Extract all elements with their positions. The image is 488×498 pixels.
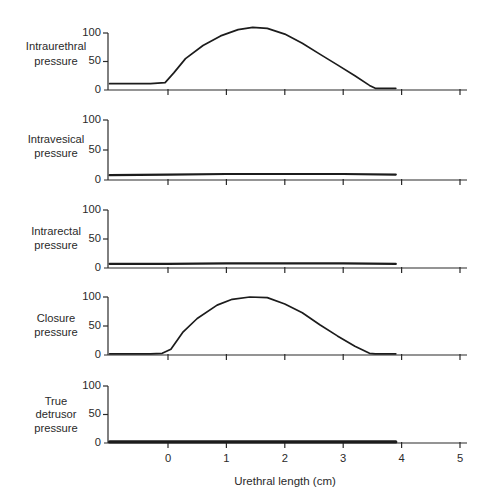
x-tick-label: 2 bbox=[282, 452, 288, 464]
y-tick-label: 0 bbox=[95, 83, 101, 95]
y-axis-label-line: True bbox=[45, 395, 68, 407]
y-axis-label-line: pressure bbox=[34, 326, 78, 338]
y-axis-label-line: Closure bbox=[37, 312, 76, 324]
y-tick-label: 50 bbox=[89, 407, 101, 419]
y-tick-label: 100 bbox=[82, 26, 101, 38]
x-axis-title: Urethral length (cm) bbox=[234, 475, 336, 487]
x-tick-label: 3 bbox=[340, 452, 346, 464]
y-axis-label-line: detrusor bbox=[35, 408, 76, 420]
pressure-trace-closure-pressure bbox=[110, 297, 396, 354]
panel-intrarectal-pressure: Intrarectalpressure050100 bbox=[31, 203, 467, 273]
x-tick-label: 4 bbox=[398, 452, 404, 464]
x-tick-label: 5 bbox=[457, 452, 463, 464]
y-axis-label-line: pressure bbox=[34, 239, 78, 251]
y-tick-label: 100 bbox=[82, 113, 101, 125]
pressure-trace-intravesical-pressure bbox=[110, 174, 396, 175]
panel-intraurethral-pressure: Intraurethralpressure050100 bbox=[26, 26, 467, 95]
panels-group: Intraurethralpressure050100Intravesicalp… bbox=[26, 26, 467, 448]
panel-closure-pressure: Closurepressure050100 bbox=[34, 290, 467, 360]
y-tick-label: 100 bbox=[82, 379, 101, 391]
x-tick-labels: 012345 bbox=[165, 452, 463, 464]
panel-true-detrusor-pressure: Truedetrusorpressure050100 bbox=[34, 379, 467, 448]
pressure-trace-intrarectal-pressure bbox=[110, 263, 396, 264]
y-axis-label-line: pressure bbox=[34, 147, 78, 159]
y-tick-label: 50 bbox=[89, 319, 101, 331]
y-tick-label: 0 bbox=[95, 261, 101, 273]
y-axis-label-line: Intravesical bbox=[28, 133, 85, 145]
y-tick-label: 100 bbox=[82, 203, 101, 215]
y-axis-label-line: pressure bbox=[34, 422, 78, 434]
y-tick-label: 50 bbox=[89, 54, 101, 66]
y-axis-label-line: Intraurethral bbox=[26, 40, 86, 52]
panel-intravesical-pressure: Intravesicalpressure050100 bbox=[28, 113, 467, 185]
y-tick-label: 50 bbox=[89, 232, 101, 244]
y-tick-label: 50 bbox=[89, 143, 101, 155]
y-axis-label-line: Intrarectal bbox=[31, 225, 81, 237]
y-tick-label: 100 bbox=[82, 290, 101, 302]
x-tick-label: 1 bbox=[223, 452, 229, 464]
x-tick-label: 0 bbox=[165, 452, 171, 464]
y-tick-label: 0 bbox=[95, 436, 101, 448]
y-tick-label: 0 bbox=[95, 348, 101, 360]
pressure-trace-intraurethral-pressure bbox=[110, 27, 396, 88]
urethral-pressure-profile-figure: Intraurethralpressure050100Intravesicalp… bbox=[0, 0, 488, 498]
y-tick-label: 0 bbox=[95, 173, 101, 185]
y-axis-label-line: pressure bbox=[34, 55, 78, 67]
